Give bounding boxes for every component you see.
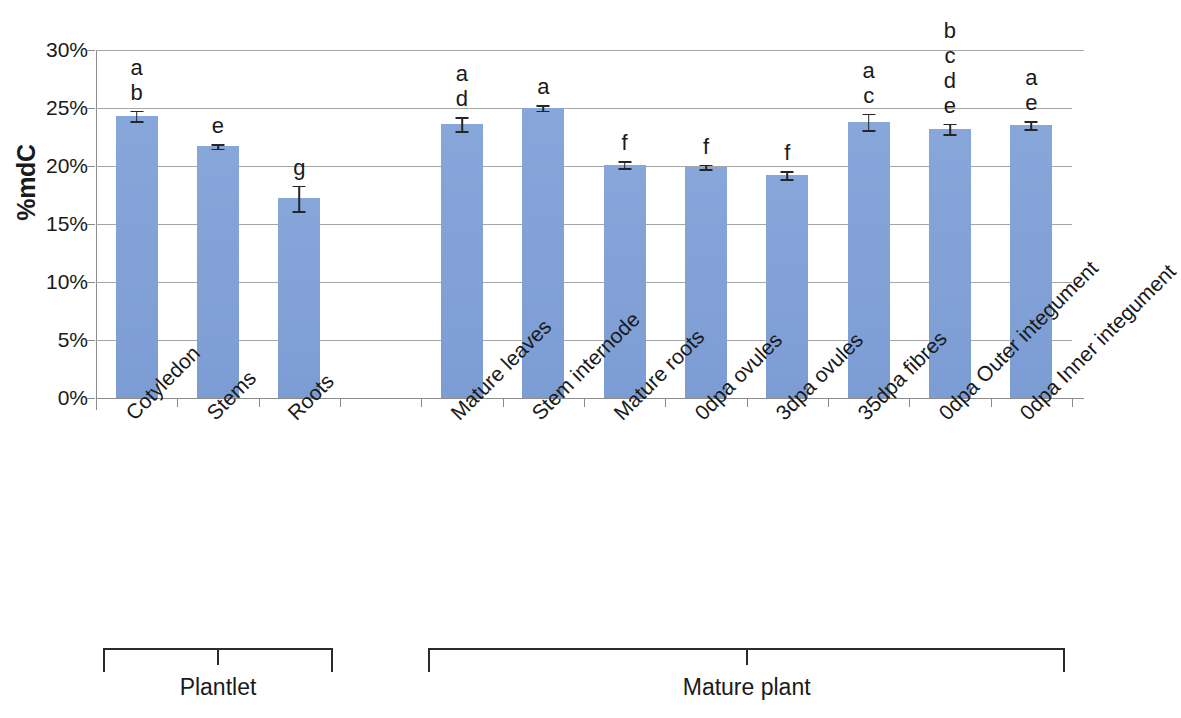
bar[interactable] <box>278 198 320 398</box>
significance-letter-label: a e <box>1025 65 1037 115</box>
error-bar-cap <box>618 168 631 170</box>
x-axis-tick-mark <box>259 398 260 407</box>
error-bar <box>868 114 870 130</box>
group-bracket-label: Plantlet <box>103 674 334 701</box>
y-axis-tick-label: 30% <box>14 38 88 62</box>
bar[interactable] <box>766 175 808 398</box>
significance-letter-label: a c <box>863 58 875 108</box>
significance-letter-label: e <box>212 113 224 138</box>
error-bar-cap <box>699 169 712 171</box>
bar-slot: a b <box>96 50 177 398</box>
error-bar-cap <box>293 211 306 213</box>
y-axis-tick-label: 0% <box>14 386 88 410</box>
x-axis-tick-mark <box>503 398 504 407</box>
x-axis-tick-mark <box>747 398 748 407</box>
significance-letter-label: a b <box>131 55 143 105</box>
x-axis-tick-mark <box>909 398 910 407</box>
error-bar-cap <box>781 171 794 173</box>
error-bar-cap <box>455 117 468 119</box>
significance-letter-label: b c d e <box>944 18 956 118</box>
bar[interactable] <box>441 124 483 398</box>
error-bar-cap <box>862 130 875 132</box>
error-bar-cap <box>455 131 468 133</box>
bar[interactable] <box>685 167 727 398</box>
x-axis-tick-mark <box>665 398 666 407</box>
significance-letter-label: f <box>622 130 628 155</box>
significance-letter-label: f <box>784 140 790 165</box>
x-axis-tick-mark <box>828 398 829 407</box>
error-bar-cap <box>1025 121 1038 123</box>
x-axis-tick-mark <box>421 398 422 407</box>
error-bar-cap <box>211 149 224 151</box>
significance-letter-label: a <box>537 74 549 99</box>
error-bar-cap <box>130 111 143 113</box>
error-bar-cap <box>130 121 143 123</box>
significance-letter-label: f <box>703 134 709 159</box>
error-bar-cap <box>537 105 550 107</box>
x-axis-tick-mark <box>177 398 178 407</box>
y-axis-tick-label: 20% <box>14 154 88 178</box>
error-bar <box>299 186 301 212</box>
y-axis-tick-mark <box>87 50 95 51</box>
y-axis-tick-mark <box>87 224 95 225</box>
group-bracket <box>428 648 1066 672</box>
y-axis-tick-labels: 30%25%20%15%10%5%0% <box>14 50 88 398</box>
error-bar-cap <box>781 179 794 181</box>
y-axis-tick-label: 25% <box>14 96 88 120</box>
bar[interactable] <box>116 116 158 398</box>
error-bar-cap <box>211 144 224 146</box>
group-bracket-nub <box>217 649 219 665</box>
error-bar-cap <box>943 124 956 126</box>
significance-letter-label: a d <box>456 61 468 111</box>
error-bar-cap <box>618 161 631 163</box>
group-bracket-nub <box>746 649 748 665</box>
significance-letter-label: g <box>293 155 305 180</box>
y-axis-tick-label: 5% <box>14 328 88 352</box>
error-bar <box>461 117 463 131</box>
y-axis-tick-mark <box>87 166 95 167</box>
x-axis-tick-mark <box>584 398 585 407</box>
y-axis-tick-mark <box>87 108 95 109</box>
group-bracket-label: Mature plant <box>428 674 1066 701</box>
bar[interactable] <box>197 146 239 398</box>
x-axis-tick-mark <box>991 398 992 407</box>
y-axis-tick-label: 15% <box>14 212 88 236</box>
y-axis-tick-label: 10% <box>14 270 88 294</box>
error-bar-cap <box>293 186 306 188</box>
error-bar-cap <box>862 114 875 116</box>
bar-slot: g <box>259 50 340 398</box>
y-axis-tick-mark <box>87 282 95 283</box>
error-bar-cap <box>1025 129 1038 131</box>
group-bracket <box>103 648 334 672</box>
y-axis-tick-mark <box>87 398 95 399</box>
error-bar-cap <box>699 165 712 167</box>
error-bar-cap <box>537 111 550 113</box>
y-axis-tick-mark <box>87 340 95 341</box>
x-axis-tick-mark <box>96 398 97 407</box>
bar[interactable] <box>604 165 646 398</box>
x-axis-tick-mark <box>1072 398 1073 407</box>
bar-slot: a d <box>421 50 502 398</box>
x-axis-tick-mark <box>340 398 341 407</box>
error-bar-cap <box>943 134 956 136</box>
